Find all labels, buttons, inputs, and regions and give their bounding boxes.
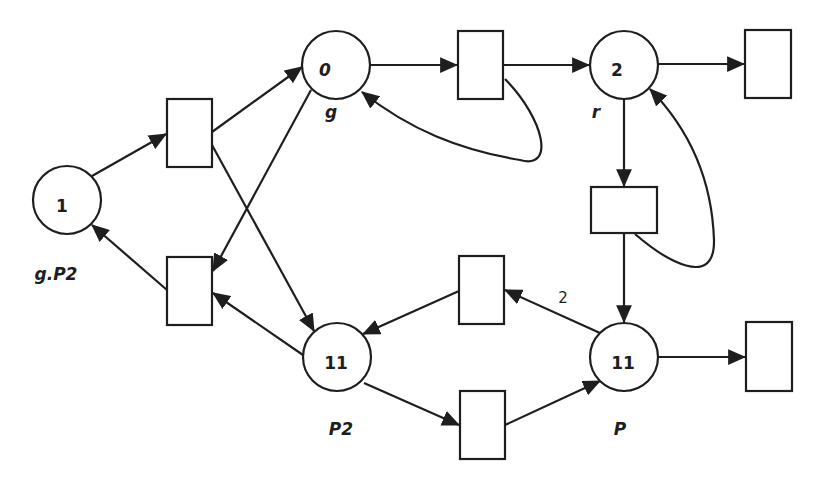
transition-t4[interactable] bbox=[745, 30, 791, 98]
transition-t3[interactable] bbox=[458, 31, 503, 99]
place-g[interactable]: 0 bbox=[302, 31, 370, 99]
transitions bbox=[167, 30, 792, 459]
transition-t2[interactable] bbox=[167, 257, 212, 325]
label-r: r bbox=[592, 102, 602, 122]
place-g-tokens: 0 bbox=[319, 60, 331, 80]
weight-P-to-t6: 2 bbox=[558, 289, 568, 307]
place-P-tokens: 11 bbox=[611, 353, 635, 373]
arc-P2-to-t7 bbox=[364, 383, 459, 425]
transition-t1[interactable] bbox=[167, 99, 212, 167]
arc-t6-to-P2 bbox=[363, 291, 459, 334]
place-r-tokens: 2 bbox=[611, 60, 623, 80]
arc-P-to-t6 bbox=[505, 290, 600, 333]
place-P2-tokens: 11 bbox=[324, 353, 348, 373]
places: 1 0 2 11 11 bbox=[33, 31, 658, 391]
place-P[interactable]: 11 bbox=[590, 323, 658, 391]
transition-t6[interactable] bbox=[459, 256, 504, 324]
transition-t5[interactable] bbox=[591, 187, 657, 233]
label-P2: P2 bbox=[329, 419, 353, 439]
place-gP2-tokens: 1 bbox=[56, 196, 68, 216]
place-P2[interactable]: 11 bbox=[303, 323, 371, 391]
arc-weight-labels: 2 bbox=[558, 289, 568, 307]
arc-gP2-to-t1 bbox=[92, 134, 166, 176]
arc-t1-to-g bbox=[212, 67, 302, 132]
arc-g-to-t2 bbox=[213, 90, 311, 271]
label-P: P bbox=[614, 419, 627, 439]
transition-t8[interactable] bbox=[746, 322, 792, 391]
arc-t2-to-gP2 bbox=[92, 225, 167, 290]
label-gP2: g.P2 bbox=[35, 264, 78, 284]
arc-t3-to-g-loop bbox=[362, 79, 541, 161]
petri-net-diagram: 1 0 2 11 11 g.P2 g r P2 P 2 bbox=[0, 0, 826, 483]
arc-t7-to-P bbox=[505, 381, 600, 425]
place-r[interactable]: 2 bbox=[590, 31, 658, 99]
arc-P2-to-t2 bbox=[213, 293, 303, 355]
place-gP2[interactable]: 1 bbox=[33, 166, 101, 234]
label-g: g bbox=[325, 102, 337, 122]
transition-t7[interactable] bbox=[460, 391, 505, 459]
arc-t5-to-r-loop bbox=[635, 89, 714, 267]
